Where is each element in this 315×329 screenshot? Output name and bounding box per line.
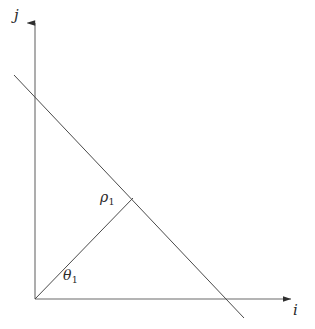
i-axis-label-text: i (293, 301, 298, 319)
theta-label-subscript: 1 (72, 274, 78, 285)
rho-label: ρ1 (100, 190, 114, 204)
theta-label-text: θ (63, 267, 71, 283)
rho-segment (35, 198, 133, 299)
diagram-canvas: j i ρ1 θ1 (0, 0, 315, 329)
diagram-svg (0, 0, 315, 329)
target-line (14, 75, 244, 318)
rho-label-text: ρ (100, 189, 108, 205)
theta-label: θ1 (63, 268, 78, 282)
i-axis-label: i (293, 303, 298, 318)
j-axis-label-text: j (14, 6, 19, 24)
j-axis-label: j (14, 8, 19, 23)
rho-label-subscript: 1 (109, 196, 115, 207)
